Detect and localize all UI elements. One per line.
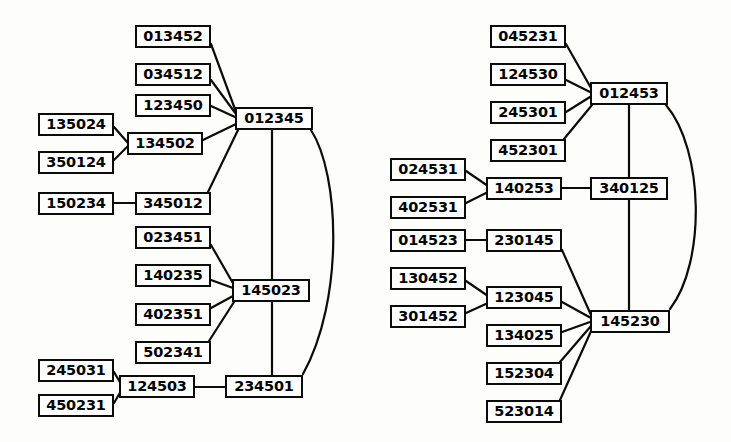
edge-152304-145230 (560, 326, 591, 362)
node-134025[interactable]: 134025 (486, 324, 562, 347)
edge-023451-145023 (211, 245, 234, 285)
node-124503[interactable]: 124503 (119, 375, 195, 398)
edge-012453-145230 (666, 105, 696, 309)
node-013452[interactable]: 013452 (135, 25, 211, 48)
edge-013452-012345 (211, 44, 236, 112)
edge-124530-012453 (566, 80, 590, 92)
edge-045231-012453 (566, 44, 591, 88)
node-245301[interactable]: 245301 (490, 101, 566, 124)
edge-134025-145230 (562, 322, 590, 332)
node-345012[interactable]: 345012 (135, 192, 211, 215)
node-014523[interactable]: 014523 (390, 229, 466, 252)
node-024531[interactable]: 024531 (390, 158, 466, 181)
edge-350124-134502 (114, 146, 128, 160)
node-502341[interactable]: 502341 (135, 341, 211, 364)
node-350124[interactable]: 350124 (38, 151, 114, 174)
edge-024531-140253 (466, 171, 488, 186)
node-145230[interactable]: 145230 (590, 310, 670, 333)
edge-245301-012453 (566, 97, 590, 112)
node-523014[interactable]: 523014 (486, 400, 562, 423)
edge-034512-012345 (211, 80, 236, 114)
node-130452[interactable]: 130452 (390, 267, 466, 290)
node-023451[interactable]: 023451 (135, 226, 211, 249)
node-123045[interactable]: 123045 (486, 286, 562, 309)
node-301452[interactable]: 301452 (390, 305, 466, 328)
node-450231[interactable]: 450231 (38, 394, 114, 417)
edge-140235-145023 (211, 280, 233, 288)
node-012453[interactable]: 012453 (590, 82, 668, 105)
edge-301452-123045 (466, 303, 488, 313)
node-230145[interactable]: 230145 (486, 229, 562, 252)
node-150234[interactable]: 150234 (38, 192, 114, 215)
node-340125[interactable]: 340125 (590, 177, 668, 200)
node-140253[interactable]: 140253 (486, 177, 562, 200)
edge-502341-145023 (209, 302, 234, 341)
edge-452301-012453 (564, 105, 592, 139)
node-452301[interactable]: 452301 (490, 139, 566, 162)
edge-123045-145230 (562, 302, 591, 318)
edge-345012-012345 (208, 130, 238, 192)
edge-402531-140253 (466, 192, 488, 203)
node-145023[interactable]: 145023 (232, 279, 310, 302)
node-402531[interactable]: 402531 (390, 196, 466, 219)
node-135024[interactable]: 135024 (38, 113, 114, 136)
node-140235[interactable]: 140235 (135, 264, 211, 287)
node-134502[interactable]: 134502 (127, 132, 203, 155)
node-234501[interactable]: 234501 (225, 375, 303, 398)
node-012345[interactable]: 012345 (235, 107, 313, 130)
edge-012345-234501 (303, 130, 333, 374)
edge-402351-145023 (211, 296, 233, 308)
node-152304[interactable]: 152304 (486, 362, 562, 385)
node-034512[interactable]: 034512 (135, 63, 211, 86)
edge-135024-134502 (114, 127, 128, 143)
edge-123450-012345 (211, 106, 235, 117)
permutation-lattice-diagram: 013452 034512 123450 135024 134502 35012… (0, 0, 731, 442)
edge-134502-012345 (203, 124, 236, 140)
node-124530[interactable]: 124530 (490, 63, 566, 86)
node-245031[interactable]: 245031 (38, 359, 114, 382)
node-123450[interactable]: 123450 (135, 94, 211, 117)
edge-130452-123045 (466, 281, 488, 296)
node-045231[interactable]: 045231 (490, 25, 566, 48)
edge-230145-145230 (562, 250, 591, 315)
node-402351[interactable]: 402351 (135, 303, 211, 326)
edge-523014-145230 (560, 329, 592, 400)
